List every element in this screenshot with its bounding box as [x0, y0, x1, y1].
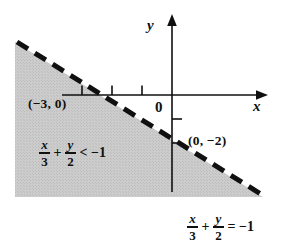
plus-operator: + — [54, 146, 62, 160]
relation-operator: < — [79, 146, 87, 160]
fraction-denominator-3: 3 — [187, 228, 198, 242]
fraction-x-over-3: x 3 — [187, 212, 198, 242]
graph-figure: y x 0 (−3, 0) (0, −2) x 3 + y 2 < −1 x 3… — [0, 0, 292, 252]
fraction-denominator-2: 2 — [213, 228, 224, 242]
fraction-y-over-2: y 2 — [65, 138, 76, 168]
inequality-label: x 3 + y 2 < −1 — [38, 138, 106, 168]
right-hand-side: −1 — [239, 220, 254, 234]
fraction-numerator-y: y — [66, 138, 76, 152]
fraction-numerator-y: y — [214, 212, 224, 226]
fraction-denominator-3: 3 — [39, 154, 50, 168]
origin-label: 0 — [155, 100, 163, 115]
relation-operator: = — [227, 220, 235, 234]
y-axis-ticks — [172, 119, 182, 143]
fraction-y-over-2: y 2 — [213, 212, 224, 242]
fraction-numerator-x: x — [39, 138, 50, 152]
x-axis-label: x — [253, 99, 261, 114]
plus-operator: + — [202, 220, 210, 234]
point-label-y-intercept: (0, −2) — [188, 134, 226, 148]
point-label-x-intercept: (−3, 0) — [28, 97, 66, 111]
fraction-numerator-x: x — [187, 212, 198, 226]
fraction-x-over-3: x 3 — [39, 138, 50, 168]
equation-label: x 3 + y 2 = −1 — [186, 212, 254, 242]
fraction-denominator-2: 2 — [65, 154, 76, 168]
right-hand-side: −1 — [91, 146, 106, 160]
y-axis-label: y — [147, 18, 154, 33]
